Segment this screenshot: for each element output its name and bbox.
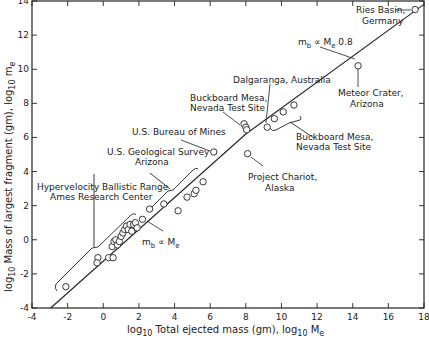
label-dalgaranga: Dalgaranga, Australia xyxy=(233,75,331,85)
y-tick-label: 2 xyxy=(23,201,29,211)
data-point xyxy=(161,201,167,207)
x-tick-label: -4 xyxy=(28,312,37,322)
label-buckboard-1: Buckboard Mesa, xyxy=(190,93,267,103)
y-tick-label: -4 xyxy=(20,303,29,313)
x-tick-label: 4 xyxy=(172,312,178,322)
scatter-chart: -4-2024681012141618-4-202468101214 Ries … xyxy=(0,0,429,340)
data-point xyxy=(184,194,190,200)
label-chariot: Project Chariot, xyxy=(248,172,317,182)
data-point xyxy=(193,187,199,193)
fit-upper-leader xyxy=(320,47,355,59)
label-meteor: Meteor Crater, xyxy=(338,88,404,98)
data-point xyxy=(244,127,250,133)
x-tick-label: 14 xyxy=(347,312,359,322)
x-tick-label: 6 xyxy=(207,312,213,322)
label-usgs-2: Arizona xyxy=(135,157,169,167)
chariot-leader xyxy=(251,157,263,166)
data-point xyxy=(264,124,270,130)
x-tick-label: 8 xyxy=(243,312,249,322)
label-ries-2: Germany xyxy=(362,16,404,26)
y-tick-label: -2 xyxy=(20,269,29,279)
x-tick-label: 18 xyxy=(418,312,429,322)
data-point xyxy=(94,260,100,266)
label-buckboard-2b: Nevada Test Site xyxy=(296,142,372,152)
data-point xyxy=(291,102,297,108)
data-point xyxy=(175,208,181,214)
data-point xyxy=(244,150,250,156)
label-fit-lower: mb ∝ Me xyxy=(142,237,179,250)
data-point xyxy=(412,6,418,12)
x-tick-label: 2 xyxy=(136,312,142,322)
data-point xyxy=(280,109,286,115)
data-point xyxy=(139,216,145,222)
label-chariot-2: Alaska xyxy=(265,183,294,193)
data-point xyxy=(110,254,116,260)
label-ames-2: Ames Research Center xyxy=(50,192,153,202)
data-point xyxy=(146,206,152,212)
y-axis-label: log10 Mass of largest fragment (gm), log… xyxy=(3,62,17,292)
y-tick-label: 4 xyxy=(23,167,29,177)
data-point xyxy=(134,225,140,231)
y-tick-label: 8 xyxy=(23,98,29,108)
x-tick-label: -2 xyxy=(63,312,72,322)
fit-lower-leader xyxy=(147,221,163,231)
label-buckboard-1b: Nevada Test Site xyxy=(190,103,266,113)
x-tick-label: 10 xyxy=(276,312,288,322)
axis-tick-labels: -4-2024681012141618-4-202468101214 xyxy=(18,0,429,322)
data-point xyxy=(200,179,206,185)
label-ries: Ries Basin, xyxy=(356,5,405,15)
x-tick-label: 16 xyxy=(383,312,395,322)
y-tick-label: 12 xyxy=(18,30,29,40)
y-tick-label: 10 xyxy=(18,64,30,74)
data-point xyxy=(271,115,277,121)
x-tick-label: 0 xyxy=(100,312,106,322)
label-ames: Hypervelocity Ballistic Range xyxy=(37,182,169,192)
buckboard1-leader xyxy=(223,112,240,125)
y-tick-label: 6 xyxy=(23,132,29,142)
label-buckboard-2: Buckboard Mesa, xyxy=(296,132,373,142)
label-meteor-2: Arizona xyxy=(350,99,384,109)
x-axis-label: log10 Total ejected mass (gm), log10 Me xyxy=(127,324,324,338)
label-bureau: U.S. Bureau of Mines xyxy=(132,127,226,137)
x-tick-label: 12 xyxy=(311,312,322,322)
y-tick-label: 0 xyxy=(23,235,29,245)
label-fit-upper: mb ∝ Me 0.8 xyxy=(298,37,353,50)
data-point xyxy=(355,63,361,69)
data-point xyxy=(211,149,217,155)
label-usgs: U.S. Geological Survey xyxy=(107,147,210,157)
y-tick-label: 14 xyxy=(18,0,30,6)
data-point xyxy=(63,283,69,289)
